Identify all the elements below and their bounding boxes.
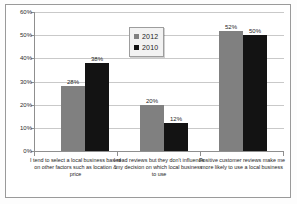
category-separator	[34, 152, 35, 156]
legend-label-2010: 2010	[142, 44, 158, 51]
category-label-1: I tend to select a local business based …	[29, 157, 122, 178]
bar-value-label: 28%	[67, 79, 79, 85]
y-axis	[34, 12, 35, 152]
legend-swatch-icon-2012	[134, 34, 139, 39]
bar-group-3: 52% 50%	[210, 31, 276, 151]
bar-value-label: 52%	[225, 24, 237, 30]
y-axis-label-60: 60%	[4, 9, 32, 15]
y-axis-label-40: 40%	[4, 55, 32, 61]
legend-item-2012[interactable]: 2012	[134, 31, 158, 42]
legend-label-2012: 2012	[142, 33, 158, 40]
bar-value-label: 38%	[91, 56, 103, 62]
bar-group-2: 20% 12%	[131, 105, 197, 151]
category-separator	[200, 152, 201, 156]
category-separator	[283, 152, 284, 156]
legend-swatch-icon-2010	[134, 45, 139, 50]
x-axis	[34, 151, 284, 152]
bar-2010-cat2[interactable]: 12%	[164, 123, 188, 151]
category-separator	[117, 152, 118, 156]
y-axis-label-20: 20%	[4, 102, 32, 108]
chart-image: 60% 50% 40% 30% 20% 10% 0% 28% 38% 20% 1…	[0, 0, 297, 204]
bar-value-label: 20%	[146, 98, 158, 104]
bar-2012-cat1[interactable]: 28%	[61, 86, 85, 151]
chart-legend: 2012 2010	[129, 27, 164, 57]
category-label-3: Positive customer reviews make me more l…	[196, 157, 288, 171]
bar-2012-cat2[interactable]: 20%	[140, 105, 164, 151]
legend-item-2010[interactable]: 2010	[134, 42, 158, 53]
gridline-60	[34, 12, 284, 13]
y-axis-label-50: 50%	[4, 32, 32, 38]
bar-2012-cat3[interactable]: 52%	[219, 31, 243, 151]
bar-group-1: 28% 38%	[52, 63, 118, 151]
bar-value-label: 50%	[249, 28, 261, 34]
bar-2010-cat1[interactable]: 38%	[85, 63, 109, 151]
y-axis-label-30: 30%	[4, 79, 32, 85]
y-axis-label-0: 0%	[4, 148, 32, 154]
bar-2010-cat3[interactable]: 50%	[243, 35, 267, 151]
y-axis-label-10: 10%	[4, 125, 32, 131]
bar-value-label: 12%	[170, 116, 182, 122]
category-label-2: I read reviews but they don't influence …	[113, 157, 205, 178]
